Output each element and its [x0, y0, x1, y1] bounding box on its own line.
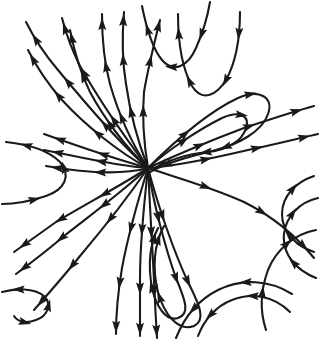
- phase-portrait-figure: [0, 0, 319, 340]
- phase-portrait-canvas: [0, 0, 319, 340]
- figure-background: [0, 0, 319, 340]
